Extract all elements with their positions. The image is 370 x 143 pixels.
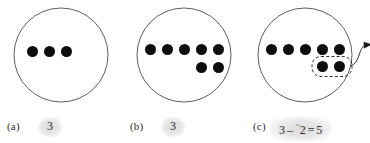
panel-c: (c) 3–⁻2=5 [246, 0, 369, 143]
counter-dot [27, 46, 38, 57]
panel-a-dots [0, 0, 123, 115]
counter-dot [283, 44, 294, 55]
counter-dot [213, 44, 224, 55]
panel-b-answer: 3 [161, 117, 185, 137]
equation-operator: – [287, 123, 293, 137]
panel-c-caption: (c) 3–⁻2=5 [246, 116, 369, 143]
panel-label-a: (a) [7, 119, 20, 133]
equation-subtrahend: 2 [300, 123, 306, 137]
panel-b: (b) 3 [123, 0, 246, 143]
panel-b-dots [123, 0, 246, 115]
panel-label-b: (b) [130, 119, 143, 133]
counter-dot [334, 44, 345, 55]
panel-a: (a) 3 [0, 0, 123, 143]
counter-dot [61, 46, 72, 57]
panel-label-c: (c) [253, 119, 266, 133]
counter-dot-grouped [334, 61, 345, 72]
counter-dot [213, 62, 224, 73]
counters-subtraction-figure: (a) 3 (b) 3 [0, 0, 370, 143]
panel-b-circle-area [123, 0, 246, 115]
counter-dot [300, 44, 311, 55]
panel-a-circle-area [0, 0, 123, 115]
counter-dot [196, 62, 207, 73]
equation-minuend: 3 [279, 123, 285, 137]
panel-c-circle-area [246, 0, 369, 115]
panel-c-dots [246, 0, 369, 115]
counter-dot [179, 44, 190, 55]
counter-dot [145, 44, 156, 55]
panel-c-equation: 3–⁻2=5 [270, 117, 332, 141]
counter-dot [266, 44, 277, 55]
panel-b-caption: (b) 3 [123, 116, 246, 143]
equation-result: 5 [316, 123, 322, 137]
counter-dot [162, 44, 173, 55]
panel-a-answer: 3 [38, 117, 62, 137]
counter-dot [317, 44, 328, 55]
panel-a-caption: (a) 3 [0, 116, 123, 143]
counter-dot [44, 46, 55, 57]
counter-dot-grouped [317, 61, 328, 72]
counter-dot [196, 44, 207, 55]
equation-equals: = [308, 123, 315, 137]
